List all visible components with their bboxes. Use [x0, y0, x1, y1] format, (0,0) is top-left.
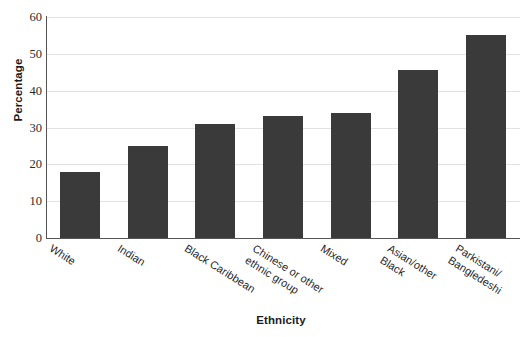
x-axis-tick-label: Asian/otherBlack	[378, 242, 440, 294]
x-axis-tick-label: Black Caribbean	[182, 242, 258, 296]
x-axis-tick-label: Mixed	[318, 242, 350, 269]
bar	[466, 35, 506, 238]
bar	[398, 70, 438, 238]
y-axis-tick-label: 30	[2, 120, 42, 135]
x-axis-tick-label-line: White	[47, 242, 78, 268]
bar-chart: Percentage 0102030405060 WhiteIndianBlac…	[0, 0, 526, 337]
bar	[331, 113, 371, 238]
y-axis-tick-label: 0	[2, 231, 42, 246]
x-axis-tick-label: Indian	[114, 242, 147, 269]
y-axis-tick-label: 60	[2, 10, 42, 25]
x-axis-tick-label-line: Black Caribbean	[182, 242, 258, 296]
y-axis-tick-label: 40	[2, 83, 42, 98]
bars-group	[46, 17, 520, 238]
x-axis-tick-label: White	[47, 242, 78, 268]
x-axis-tick-label-line: Mixed	[318, 242, 350, 269]
bar	[263, 116, 303, 238]
y-axis-tick-label: 20	[2, 157, 42, 172]
x-axis-tick-label: Chinese or otherethnic group	[243, 242, 326, 308]
y-axis-tick-labels: 0102030405060	[0, 17, 42, 238]
bar	[195, 124, 235, 238]
x-axis-tick-label-line: Indian	[114, 242, 147, 269]
x-axis-tick-labels: WhiteIndianBlack CaribbeanChinese or oth…	[46, 240, 520, 310]
bar	[128, 146, 168, 238]
y-axis-tick-label: 50	[2, 46, 42, 61]
bar	[60, 172, 100, 238]
x-axis-title: Ethnicity	[0, 314, 526, 326]
x-axis-tick-label: Parkistani/Bangledeshi	[446, 242, 512, 297]
y-axis-tick-label: 10	[2, 194, 42, 209]
